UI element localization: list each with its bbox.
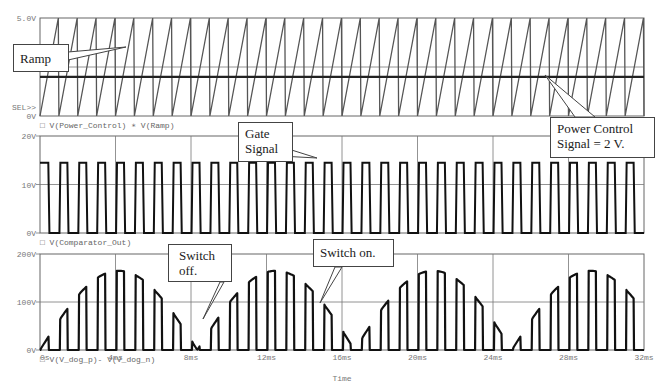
callout-gate-signal: Gate Signal <box>238 122 293 162</box>
callout-switch-off-line2: off. <box>179 263 225 278</box>
svg-text:200V: 200V <box>17 250 36 259</box>
grid-lines <box>36 18 644 350</box>
callout-power-control-line2: Signal = 2 V. <box>557 136 648 151</box>
svg-text:28ms: 28ms <box>559 353 578 362</box>
callout-switch-on: Switch on. <box>313 239 394 267</box>
svg-text:4ms: 4ms <box>108 353 123 362</box>
callout-switch-on-text: Switch on. <box>320 245 376 260</box>
callout-power-control: Power Control Signal = 2 V. <box>550 117 655 158</box>
svg-text:5.0V: 5.0V <box>17 14 36 23</box>
legend: □ V(Power_Control) ∗ V(Ramp) <box>40 121 174 130</box>
svg-text:0V: 0V <box>26 346 36 355</box>
callout-power-control-line1: Power Control <box>557 121 648 136</box>
callout-ramp: Ramp <box>13 44 69 72</box>
callout-gate-line2: Signal <box>245 141 286 156</box>
svg-text:24ms: 24ms <box>483 353 502 362</box>
svg-text:20V: 20V <box>22 132 37 141</box>
svg-text:SEL>>: SEL>> <box>12 103 36 112</box>
svg-text:0V: 0V <box>26 229 36 238</box>
callout-ramp-text: Ramp <box>20 51 51 66</box>
legend: □ V(Comparator_Out) <box>40 238 131 247</box>
svg-text:16ms: 16ms <box>332 353 351 362</box>
callout-gate-line1: Gate <box>245 126 286 141</box>
svg-text:0V: 0V <box>26 112 36 121</box>
svg-text:10V: 10V <box>22 181 37 190</box>
svg-text:100V: 100V <box>17 298 36 307</box>
callout-switch-off: Switch off. <box>168 244 232 282</box>
svg-text:8ms: 8ms <box>184 353 199 362</box>
waveform-chart: 5.0VSEL>>0V□ V(Power_Control) ∗ V(Ramp)2… <box>0 0 667 387</box>
svg-text:0s: 0s <box>40 353 50 362</box>
svg-text:32ms: 32ms <box>634 353 653 362</box>
svg-text:20ms: 20ms <box>408 353 427 362</box>
legend: □ V(V_dog_p)- V(V_dog_n) <box>40 355 155 364</box>
svg-text:12ms: 12ms <box>257 353 276 362</box>
x-axis-label: Time <box>332 374 351 383</box>
callout-switch-off-line1: Switch <box>179 248 225 263</box>
